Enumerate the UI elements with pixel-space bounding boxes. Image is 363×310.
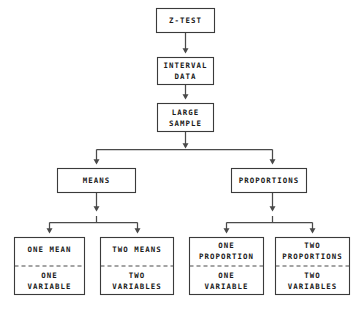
node-proportions[interactable]: PROPORTIONS bbox=[232, 169, 307, 193]
node-one-proportion[interactable]: ONE PROPORTION ONE VARIABLE bbox=[190, 238, 264, 295]
connector-means-to-split bbox=[50, 193, 138, 232]
flowchart-canvas: Z-TEST INTERVAL DATA LARGE SAMPLE MEANS … bbox=[0, 0, 363, 310]
node-two-means-top1: TWO MEANS bbox=[112, 245, 162, 254]
node-one-proportion-bot1: ONE bbox=[218, 271, 235, 280]
node-z-test[interactable]: Z-TEST bbox=[157, 9, 215, 33]
node-two-proportions-top1: TWO bbox=[304, 241, 321, 250]
node-two-proportions-bot2: VARIABLES bbox=[288, 282, 338, 291]
node-two-proportions-top2: PROPORTIONS bbox=[282, 252, 343, 261]
connector-proportions-to-split bbox=[227, 193, 313, 232]
node-two-means-bot2: VARIABLES bbox=[112, 282, 162, 291]
node-two-proportions-bot1: TWO bbox=[304, 271, 321, 280]
connector-split-means-proportions bbox=[97, 150, 273, 164]
node-two-proportions[interactable]: TWO PROPORTIONS TWO VARIABLES bbox=[276, 238, 350, 295]
node-interval-data[interactable]: INTERVAL DATA bbox=[158, 58, 214, 85]
node-one-proportion-top1: ONE bbox=[218, 241, 235, 250]
node-one-mean[interactable]: ONE MEAN ONE VARIABLE bbox=[15, 238, 85, 295]
node-interval-data-line1: INTERVAL bbox=[164, 61, 208, 70]
node-proportions-label: PROPORTIONS bbox=[239, 176, 300, 185]
node-two-means[interactable]: TWO MEANS TWO VARIABLES bbox=[101, 238, 174, 295]
node-large-sample-line1: LARGE bbox=[172, 108, 200, 117]
node-two-means-bot1: TWO bbox=[129, 271, 146, 280]
node-one-proportion-bot2: VARIABLE bbox=[205, 282, 249, 291]
node-one-proportion-top2: PROPORTION bbox=[199, 252, 254, 261]
node-one-mean-bot2: VARIABLE bbox=[28, 282, 72, 291]
node-means[interactable]: MEANS bbox=[58, 169, 136, 193]
node-one-mean-top1: ONE MEAN bbox=[28, 245, 72, 254]
node-interval-data-line2: DATA bbox=[175, 72, 197, 81]
node-one-mean-bot1: ONE bbox=[41, 271, 58, 280]
node-large-sample-line2: SAMPLE bbox=[169, 119, 202, 128]
node-means-label: MEANS bbox=[83, 176, 111, 185]
node-large-sample[interactable]: LARGE SAMPLE bbox=[158, 104, 214, 132]
node-z-test-label: Z-TEST bbox=[169, 16, 202, 25]
